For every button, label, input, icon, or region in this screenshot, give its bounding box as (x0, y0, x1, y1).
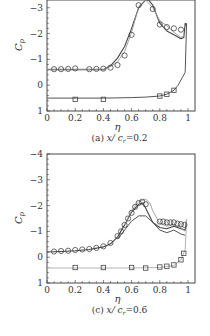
square-marker (101, 265, 105, 269)
x-tick-label: 0.4 (96, 113, 111, 123)
y-tick-label: −3 (30, 3, 44, 13)
x-tick-label: 0.6 (124, 285, 139, 295)
x-tick-label: 1 (185, 285, 191, 295)
series-line (47, 23, 187, 98)
y-tick-label: 0 (37, 252, 43, 262)
square-marker (73, 265, 77, 269)
y-tick-label: −1 (30, 226, 43, 236)
x-tick-label: 0.8 (153, 285, 168, 295)
series-line (47, 0, 184, 69)
panel-caption: (c) x/ cr=0.6 (92, 305, 148, 316)
y-tick-label: −3 (30, 175, 44, 185)
circle-marker (178, 222, 183, 227)
y-tick-label: 0 (37, 80, 43, 90)
circle-marker (115, 62, 120, 67)
y-tick-label: 1 (37, 278, 43, 288)
series-line (47, 203, 187, 252)
circle-marker (108, 240, 113, 245)
x-tick-label: 0.2 (68, 285, 82, 295)
y-tick-label: −2 (30, 29, 43, 39)
x-axis-label: η (115, 293, 121, 304)
y-tick-label: −2 (30, 201, 43, 211)
y-tick-label: −1 (30, 54, 43, 64)
y-axis-label: Cp (13, 38, 26, 51)
circle-marker (171, 220, 176, 225)
x-tick-label: 0.2 (68, 113, 82, 123)
x-tick-label: 0.8 (153, 113, 168, 123)
series-line (47, 220, 187, 268)
y-tick-label: −4 (30, 149, 44, 159)
circle-marker (161, 219, 166, 224)
circle-marker (171, 26, 176, 31)
series-line (47, 0, 187, 70)
y-axis-label: Cp (13, 211, 26, 224)
plot-area (47, 199, 187, 270)
chart-panel-c: 00.20.40.60.81−4−3−2−101ηCp(c) x/ cr=0.6 (13, 149, 195, 316)
chart-panel-a: 00.20.40.60.81−3−2−101ηCp(a) x/ cr=0.2 (13, 0, 195, 144)
circle-marker (178, 27, 183, 32)
x-tick-label: 0.6 (124, 113, 139, 123)
plot-frame (47, 0, 195, 111)
square-marker (129, 265, 133, 269)
circle-marker (122, 53, 127, 58)
panel-caption: (a) x/ cr=0.2 (92, 133, 148, 144)
x-tick-label: 1 (185, 113, 191, 123)
x-axis-label: η (115, 121, 121, 132)
figure: 00.20.40.60.81−3−2−101ηCp(a) x/ cr=0.2 0… (0, 0, 210, 336)
x-tick-label: 0 (44, 113, 50, 123)
plot-frame (47, 154, 195, 283)
y-tick-label: 1 (37, 106, 43, 116)
plot-area (47, 0, 187, 102)
circle-marker (73, 247, 78, 252)
x-tick-label: 0.4 (96, 285, 111, 295)
x-tick-label: 0 (44, 285, 50, 295)
